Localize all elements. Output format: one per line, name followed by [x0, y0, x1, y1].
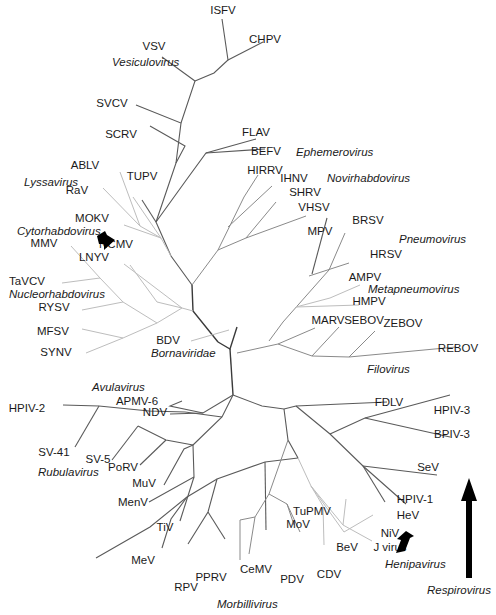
phylogenetic-tree: ISFVCHPVVSVSVCVSCRVFLAVBEFVABLVTUPVHIRRV… — [0, 0, 496, 615]
taxon-label-marv: MARV — [311, 314, 344, 326]
tree-branch — [233, 395, 387, 409]
taxon-label-synv: SYNV — [40, 346, 72, 358]
tree-branch — [298, 458, 324, 545]
taxon-label-fdlv: FDLV — [375, 396, 404, 408]
tree-branch — [140, 440, 166, 465]
genus-label-metapneumovirus: Metapneumovirus — [368, 283, 460, 295]
taxon-label-mov: MoV — [286, 518, 310, 530]
taxon-label-hirrv: HIRRV — [247, 164, 283, 176]
tree-branch — [75, 406, 99, 447]
taxon-label-hpiv-3: HPIV-3 — [434, 404, 470, 416]
genus-label-novirhabdovirus: Novirhabdovirus — [327, 172, 410, 184]
taxon-label-porv: PoRV — [108, 461, 138, 473]
genus-label-bornaviridae: Bornaviridae — [151, 347, 216, 359]
taxon-label-shrv: SHRV — [289, 186, 321, 198]
taxon-label-rysv: RYSV — [38, 301, 69, 313]
tree-branch — [133, 197, 171, 256]
taxon-label-sev: SeV — [417, 461, 439, 473]
tree-branch — [149, 445, 194, 502]
genus-label-vesiculovirus: Vesiculovirus — [112, 56, 180, 68]
genus-label-nucleorhabdovirus: Nucleorhabdovirus — [9, 288, 105, 300]
taxon-label-ablv: ABLV — [71, 159, 100, 171]
genus-label-filovirus: Filovirus — [367, 363, 410, 375]
taxon-label-mmv: MMV — [31, 237, 58, 249]
taxon-label-cdv: CDV — [317, 568, 342, 580]
tree-branch — [249, 440, 288, 554]
taxon-label-vhsv: VHSV — [298, 201, 330, 213]
taxon-label-tupv: TUPV — [127, 170, 158, 182]
tree-branch — [349, 331, 375, 357]
tree-branch — [228, 186, 272, 227]
genus-labels: VesiculovirusEphemerovirusNovirhabdoviru… — [9, 56, 491, 610]
taxon-label-mfsv: MFSV — [37, 325, 69, 337]
genus-label-cytorhabdovirus: Cytorhabdovirus — [17, 225, 101, 237]
taxon-label-cemv: CeMV — [240, 563, 272, 575]
taxon-label-ihnv: IHNV — [280, 172, 308, 184]
tree-branch — [284, 409, 298, 458]
tree-branch — [193, 395, 233, 445]
tree-branch — [62, 278, 100, 283]
tree-branch — [309, 263, 349, 276]
taxon-label-tupmv: TuPMV — [293, 505, 331, 517]
taxon-label-mokv: MOKV — [75, 212, 109, 224]
genus-label-pneumovirus: Pneumovirus — [399, 233, 466, 245]
taxon-label-tiv: TiV — [157, 521, 174, 533]
taxon-label-befv: BEFV — [251, 145, 281, 157]
taxon-label-hrsv: HRSV — [370, 248, 402, 260]
genus-label-respirovirus: Respirovirus — [427, 584, 491, 596]
tree-branch — [164, 445, 193, 485]
tree-branch — [312, 327, 339, 356]
taxon-label-ampv: AMPV — [349, 271, 382, 283]
taxon-label-menv: MenV — [118, 496, 148, 508]
tree-branch — [86, 338, 123, 353]
tree-branch — [82, 323, 157, 338]
tree-branch — [240, 517, 255, 560]
taxon-label-lnyv: LNYV — [79, 251, 109, 263]
respirovirus-arrow-icon — [461, 478, 477, 578]
genus-label-rubulavirus: Rubulavirus — [38, 466, 99, 478]
tree-branch — [230, 349, 233, 395]
tree-branch — [142, 200, 156, 222]
taxon-label-pprv: PPRV — [195, 571, 226, 583]
taxon-label-isfv: ISFV — [210, 4, 236, 16]
taxon-label-pdv: PDV — [280, 573, 304, 585]
tree-branch — [208, 512, 225, 539]
tree-branch — [363, 466, 385, 502]
tree-branch — [296, 305, 359, 307]
tree-branch — [138, 426, 193, 445]
tree-branch — [112, 426, 138, 460]
tree-branch — [237, 344, 349, 357]
tree-branch — [343, 499, 346, 525]
taxon-label-hmpv: HMPV — [352, 295, 386, 307]
genus-label-avulavirus: Avulavirus — [91, 381, 145, 393]
taxon-label-hpiv-2: HPIV-2 — [9, 402, 45, 414]
tree-branch — [265, 462, 266, 530]
taxon-label-hev: HeV — [397, 509, 420, 521]
genus-label-ephemerovirus: Ephemerovirus — [296, 146, 374, 158]
taxon-label-flav: FLAV — [242, 126, 270, 138]
taxon-label-hpiv-1: HPIV-1 — [397, 493, 433, 505]
tree-branch — [82, 302, 123, 310]
tree-branch — [195, 19, 228, 81]
tree-branch — [187, 139, 256, 179]
taxon-label-tavcv: TaVCV — [9, 275, 45, 287]
tree-branch — [188, 479, 217, 544]
taxon-label-mev: MeV — [131, 554, 155, 566]
tree-branch — [278, 328, 315, 344]
taxon-label-sv-5: SV-5 — [86, 453, 111, 465]
taxon-label-scrv: SCRV — [105, 128, 137, 140]
taxon-label-bev: BeV — [336, 541, 358, 553]
genus-label-morbillivirus: Morbillivirus — [217, 598, 278, 610]
taxon-label-muv: MuV — [132, 477, 156, 489]
tree-branch — [156, 179, 192, 285]
taxon-label-mpv: MPV — [308, 225, 333, 237]
tree-branch — [96, 458, 298, 558]
taxon-label-sebov: SEBOV — [344, 314, 384, 326]
taxon-label-sv-41: SV-41 — [38, 446, 69, 458]
genus-label-henipavirus: Henipavirus — [385, 558, 446, 570]
taxon-label-bdv: BDV — [156, 334, 180, 346]
taxon-label-rpv: RPV — [174, 581, 198, 593]
taxon-label-zebov: ZEBOV — [384, 317, 423, 329]
taxon-label-ndv: NDV — [143, 406, 168, 418]
genus-label-lyssavirus: Lyssavirus — [24, 176, 78, 188]
